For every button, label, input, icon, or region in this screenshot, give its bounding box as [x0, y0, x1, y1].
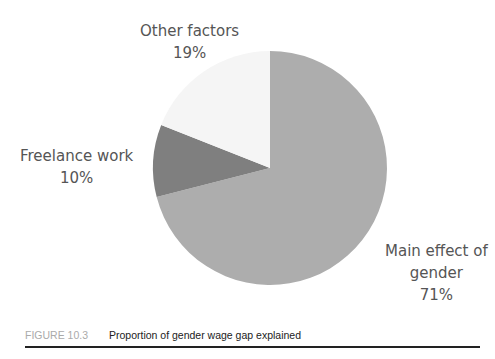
label-value: 10% — [20, 167, 133, 189]
label-text: Freelance work — [20, 145, 133, 167]
label-main-effect: Main effect of gender 71% — [385, 240, 488, 306]
label-value: 71% — [385, 284, 488, 306]
label-text: Main effect of — [385, 240, 488, 262]
figure-title: Proportion of gender wage gap explained — [109, 329, 301, 341]
label-value: 19% — [140, 42, 239, 64]
caption-rule — [25, 346, 480, 348]
figure-caption: FIGURE 10.3 Proportion of gender wage ga… — [25, 329, 301, 341]
label-other-factors: Other factors 19% — [140, 20, 239, 64]
label-freelance-work: Freelance work 10% — [20, 145, 133, 189]
label-text-2: gender — [385, 262, 488, 284]
figure-number: FIGURE 10.3 — [25, 329, 88, 341]
label-text: Other factors — [140, 20, 239, 42]
